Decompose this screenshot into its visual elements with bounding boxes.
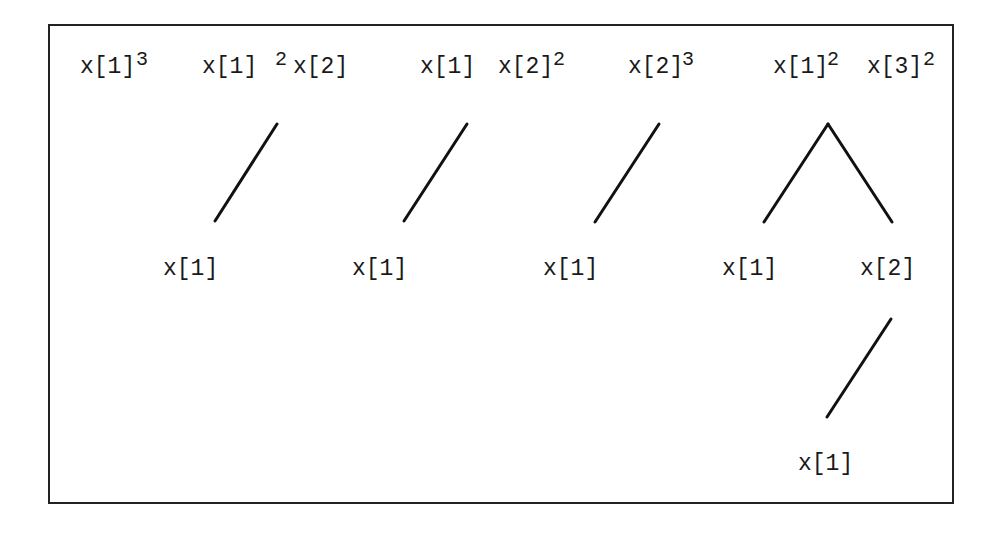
- tree1-root-exponent: 3: [136, 50, 148, 70]
- edge-tree5-sub: [827, 319, 891, 417]
- tree5-root-base2: x[3]: [867, 56, 922, 79]
- tree4-child: x[1]: [543, 258, 598, 281]
- tree3-root-base1: x[1]: [420, 56, 475, 79]
- tree5-root-exponent1: 2: [827, 50, 839, 70]
- tree1-root-base: x[1]: [80, 56, 135, 79]
- edge-tree5-right: [828, 124, 892, 222]
- edge-tree5-left: [764, 124, 828, 222]
- tree3-root-exponent2: 2: [553, 50, 565, 70]
- edge-tree3: [404, 124, 467, 221]
- edge-tree4: [595, 124, 659, 222]
- tree3-root-base2: x[2]: [498, 56, 553, 79]
- tree-edges: [0, 0, 1005, 540]
- tree3-child: x[1]: [352, 258, 407, 281]
- tree2-root-exponent1: 2: [275, 50, 287, 70]
- edge-tree2: [215, 124, 277, 221]
- tree2-root-base2: x[2]: [293, 56, 348, 79]
- tree2-child: x[1]: [163, 258, 218, 281]
- tree5-child-right: x[2]: [860, 258, 915, 281]
- tree2-root-base1: x[1]: [202, 56, 257, 79]
- tree4-root-exponent: 3: [682, 50, 694, 70]
- tree5-root-base1: x[1]: [773, 56, 828, 79]
- tree5-root-exponent2: 2: [923, 50, 935, 70]
- tree5-child-left: x[1]: [722, 258, 777, 281]
- tree4-root-base: x[2]: [628, 56, 683, 79]
- tree5-grandchild: x[1]: [798, 453, 853, 476]
